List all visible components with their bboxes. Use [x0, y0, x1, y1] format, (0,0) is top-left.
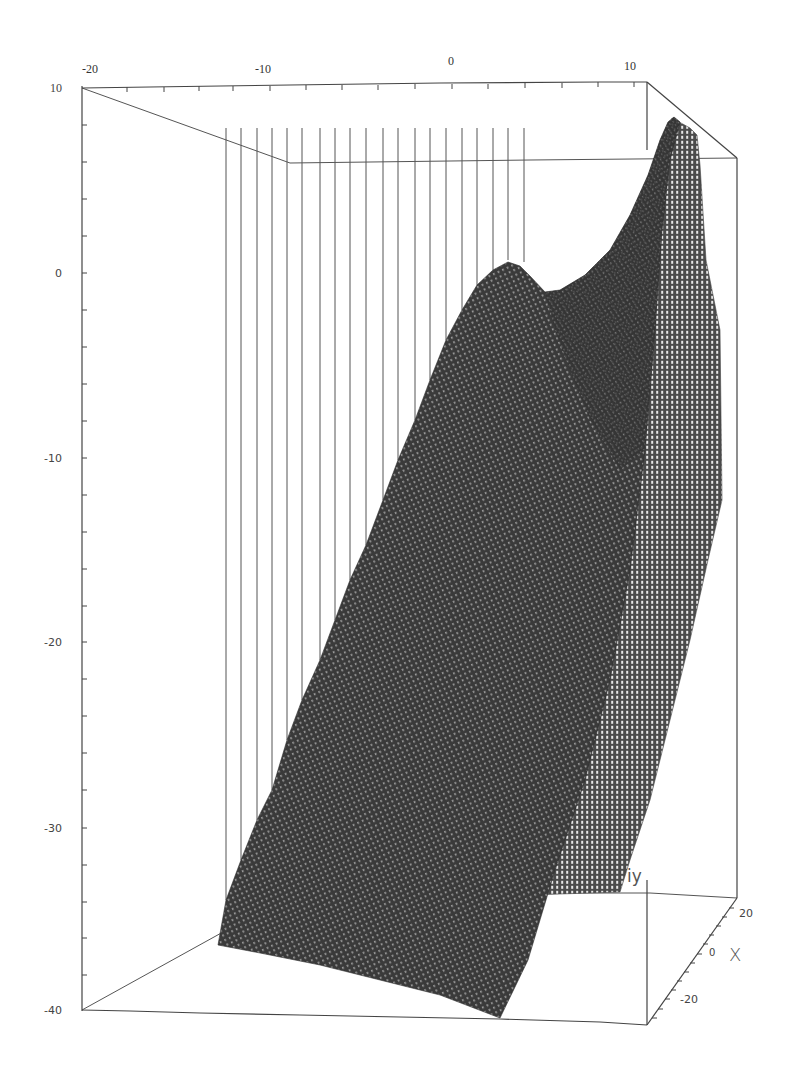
top-tick-label-0: 0 [448, 55, 454, 67]
top-tick-label-10: 10 [624, 60, 636, 72]
left-tick-label-0: 0 [22, 268, 62, 279]
left-tick-label-neg30: -30 [22, 823, 62, 834]
x-tick-label-0: 0 [709, 948, 715, 958]
left-tick-label-neg20: -20 [22, 637, 62, 648]
left-tick-label-neg10: -10 [22, 453, 62, 464]
x-tick-label-20: 20 [739, 908, 753, 919]
y-axis-title: iy [627, 868, 642, 885]
left-axis-ticks [82, 125, 87, 975]
x-tick-label-neg20: -20 [680, 994, 698, 1005]
left-tick-label-neg40: -40 [22, 1005, 62, 1016]
left-tick-label-10: 10 [22, 82, 62, 94]
surface-plot-3d [0, 0, 800, 1080]
x-axis-title: X [729, 946, 741, 964]
top-tick-label-neg20: -20 [82, 63, 98, 75]
top-tick-label-neg10: -10 [255, 63, 271, 75]
